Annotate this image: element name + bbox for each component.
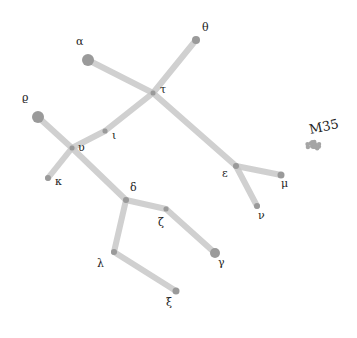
star-iota	[103, 129, 108, 134]
cluster-dot	[313, 145, 317, 149]
star-label: ξ	[166, 297, 172, 308]
constellation-lines	[38, 40, 281, 291]
star-epsilon	[233, 163, 239, 169]
star-label: γ	[218, 257, 225, 268]
cluster-dot	[317, 142, 321, 146]
edge-lambda-xi	[114, 252, 176, 291]
constellation-diagram	[0, 0, 357, 338]
edge-iota-upsilon	[72, 131, 105, 148]
star-zeta	[164, 207, 169, 212]
star-label: θ	[202, 22, 209, 33]
edge-delta-lambda	[114, 200, 126, 252]
star-label: λ	[97, 258, 104, 269]
edge-upsilon-kappa	[48, 148, 72, 178]
edge-tau-epsilon	[153, 93, 236, 166]
star-label: ζ	[158, 217, 164, 228]
star-label: ν	[258, 210, 265, 221]
edge-upsilon-delta	[72, 148, 126, 200]
star-theta	[192, 36, 200, 44]
edge-delta-zeta	[126, 200, 166, 209]
cluster-dot	[306, 145, 310, 149]
m35-cluster	[305, 140, 321, 151]
star-label: ι	[112, 130, 116, 141]
star-xi	[173, 288, 180, 295]
star-label: α	[76, 36, 83, 47]
star-label: τ	[160, 84, 166, 95]
edge-rho-upsilon	[38, 117, 72, 148]
star-kappa	[45, 175, 51, 181]
star-alpha	[82, 54, 94, 66]
star-label: υ	[78, 142, 85, 153]
star-label: ϱ	[22, 92, 28, 103]
star-lambda	[111, 249, 117, 255]
cluster-dot	[309, 141, 313, 145]
star-label: δ	[130, 182, 137, 193]
star-rho	[32, 111, 44, 123]
star-delta	[123, 197, 129, 203]
star-tau	[151, 91, 156, 96]
edge-zeta-gamma	[166, 209, 215, 253]
star-label: ε	[222, 168, 228, 179]
star-label: κ	[55, 176, 62, 187]
star-upsilon	[70, 146, 75, 151]
edge-tau-iota	[105, 93, 153, 131]
edge-alpha-tau	[88, 60, 153, 93]
star-label: μ	[281, 178, 288, 189]
